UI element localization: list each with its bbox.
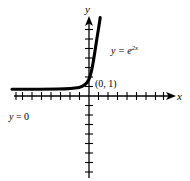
exponential-function-figure: y x y = e2x (0, 1) y = 0 [0,0,190,181]
exponential-curve [12,18,100,90]
point-label-0-1: (0, 1) [95,79,117,89]
curve-equation-lhs: y = [111,45,127,56]
curve-equation-exponent: 2x [132,44,138,51]
x-axis-label: x [177,91,182,102]
plot-canvas [0,0,190,181]
y-axis-label: y [85,4,90,15]
asymptote-value: = 0 [13,111,29,122]
asymptote-label: y = 0 [9,112,29,122]
curve-equation-label: y = e2x [111,46,138,56]
